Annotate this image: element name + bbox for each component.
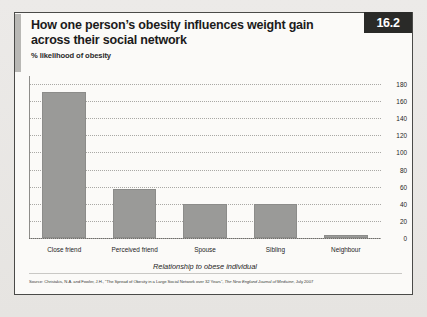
- y-axis-tick-label: 180: [385, 81, 407, 88]
- page-title: How one person’s obesity influences weig…: [31, 18, 341, 48]
- y-axis-tick-label: 0: [385, 235, 407, 242]
- source-note: Source: Christakis, N.A. and Fowler, J.H…: [29, 279, 404, 285]
- x-axis-label: Close friend: [47, 246, 81, 253]
- y-axis-tick-label: 40: [385, 200, 407, 207]
- source-prefix: Source: Christakis, N.A. and Fowler, J.H…: [29, 279, 224, 284]
- source-journal: The New England Journal of Medicine: [224, 279, 293, 284]
- gridline: [30, 84, 381, 85]
- footer-divider: [29, 273, 402, 274]
- title-accent-bar: [15, 14, 21, 72]
- bar-perceived-friend: [113, 189, 157, 238]
- y-axis-tick-label: 160: [385, 98, 407, 105]
- y-axis-tick-label: 100: [385, 149, 407, 156]
- page-background: How one person’s obesity influences weig…: [0, 0, 427, 317]
- gridline: [30, 238, 381, 239]
- bar-sibling: [254, 204, 298, 238]
- y-axis-tick-label: 20: [385, 217, 407, 224]
- x-axis-title: Relationship to obese individual: [29, 262, 381, 271]
- x-axis-label: Neighbour: [331, 246, 361, 253]
- x-axis-label: Sibling: [266, 246, 285, 253]
- bar-spouse: [183, 204, 227, 238]
- y-axis-tick-label: 60: [385, 183, 407, 190]
- y-axis-tick-label: 140: [385, 115, 407, 122]
- source-suffix: , July 2007: [293, 279, 313, 284]
- bar-close-friend: [42, 92, 86, 238]
- y-axis-tick-label: 120: [385, 132, 407, 139]
- x-axis-label: Spouse: [194, 246, 216, 253]
- y-axis-tick-label: 80: [385, 166, 407, 173]
- chart-subtitle: % likelihood of obesity: [31, 51, 111, 60]
- figure-card: How one person’s obesity influences weig…: [14, 12, 413, 295]
- bar-neighbour: [324, 235, 368, 238]
- figure-number-badge: 16.2: [364, 12, 412, 33]
- chart-plot-area: 020406080100120140160180 Close friendPer…: [29, 76, 381, 239]
- x-axis-label: Perceived friend: [112, 246, 158, 253]
